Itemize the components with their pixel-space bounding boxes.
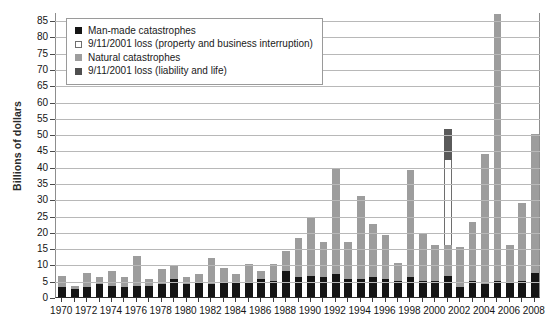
bar-1982 bbox=[208, 258, 216, 297]
segment-man-made bbox=[456, 287, 464, 297]
gridline bbox=[55, 184, 540, 185]
x-axis-tick bbox=[148, 298, 149, 302]
y-axis-tick-label: 25 bbox=[22, 212, 48, 222]
catastrophe-losses-bar-chart: Billions of dollars 05101520253035404550… bbox=[0, 0, 559, 327]
gridline bbox=[55, 103, 540, 104]
man-made-swatch bbox=[75, 27, 82, 34]
x-axis-tick bbox=[235, 298, 236, 302]
legend-label-man-made: Man-made catastrophes bbox=[88, 26, 196, 36]
segment-natural bbox=[382, 235, 390, 279]
x-axis-tick bbox=[298, 298, 299, 302]
legend-label-loss-liability: 9/11/2001 loss (liability and life) bbox=[88, 66, 227, 76]
segment-man-made bbox=[71, 289, 79, 297]
y-axis-tick bbox=[50, 184, 55, 185]
x-axis-tick bbox=[484, 298, 485, 302]
segment-man-made bbox=[307, 276, 315, 297]
segment-man-made bbox=[431, 281, 439, 297]
bar-2001 bbox=[444, 129, 452, 297]
bar-1988 bbox=[282, 251, 290, 297]
segment-man-made bbox=[506, 282, 514, 297]
segment-man-made bbox=[407, 277, 415, 297]
segment-natural bbox=[506, 245, 514, 282]
gridline bbox=[55, 119, 540, 120]
y-axis-tick-label: 35 bbox=[22, 179, 48, 189]
x-axis-tick bbox=[74, 298, 75, 302]
bar-2006 bbox=[506, 245, 514, 297]
bar-1974 bbox=[108, 271, 116, 297]
segment-man-made bbox=[158, 284, 166, 297]
x-axis-tick bbox=[111, 298, 112, 302]
segment-loss-liability bbox=[444, 129, 452, 160]
segment-natural bbox=[208, 258, 216, 284]
bar-1973 bbox=[96, 277, 104, 297]
x-axis-tick bbox=[123, 298, 124, 302]
bar-1975 bbox=[121, 277, 129, 297]
gridline bbox=[55, 151, 540, 152]
natural-swatch bbox=[75, 54, 82, 61]
segment-man-made bbox=[58, 287, 66, 297]
bar-1995 bbox=[369, 224, 377, 297]
segment-man-made bbox=[108, 286, 116, 297]
segment-natural bbox=[295, 238, 303, 277]
x-axis-tick bbox=[198, 298, 199, 302]
y-axis-tick-label: 60 bbox=[22, 98, 48, 108]
x-axis-tick bbox=[161, 298, 162, 302]
x-axis-tick bbox=[61, 298, 62, 302]
x-axis-tick-label: 2008 bbox=[517, 305, 551, 316]
y-axis-tick-label: 30 bbox=[22, 195, 48, 205]
x-axis-tick bbox=[310, 298, 311, 302]
x-axis-tick bbox=[447, 298, 448, 302]
bar-1971 bbox=[71, 286, 79, 297]
bar-2004 bbox=[481, 154, 489, 297]
segment-natural bbox=[407, 170, 415, 277]
segment-man-made bbox=[121, 287, 129, 297]
y-axis-tick bbox=[50, 135, 55, 136]
y-axis-tick-label: 75 bbox=[22, 49, 48, 59]
bar-1978 bbox=[158, 269, 166, 297]
x-axis-tick bbox=[273, 298, 274, 302]
segment-man-made bbox=[531, 273, 539, 297]
y-axis-tick bbox=[50, 298, 55, 299]
x-axis-tick bbox=[223, 298, 224, 302]
segment-man-made bbox=[295, 277, 303, 297]
y-axis-tick-label: 55 bbox=[22, 114, 48, 124]
segment-natural bbox=[108, 271, 116, 286]
gridline bbox=[55, 217, 540, 218]
segment-natural bbox=[320, 242, 328, 278]
x-axis-tick bbox=[472, 298, 473, 302]
x-axis-tick bbox=[173, 298, 174, 302]
y-axis-tick-label: 10 bbox=[22, 260, 48, 270]
segment-man-made bbox=[494, 281, 502, 297]
bar-1976 bbox=[133, 256, 141, 297]
bar-1990 bbox=[307, 217, 315, 297]
x-axis-tick bbox=[434, 298, 435, 302]
segment-natural bbox=[531, 134, 539, 272]
x-axis-tick bbox=[335, 298, 336, 302]
bar-2000 bbox=[431, 245, 439, 297]
y-axis-tick bbox=[50, 21, 55, 22]
segment-natural bbox=[431, 245, 439, 281]
y-axis-tick bbox=[50, 217, 55, 218]
x-axis-tick bbox=[347, 298, 348, 302]
y-axis-tick bbox=[50, 54, 55, 55]
segment-man-made bbox=[133, 286, 141, 297]
segment-natural bbox=[357, 196, 365, 279]
x-axis-tick bbox=[99, 298, 100, 302]
segment-man-made bbox=[282, 271, 290, 297]
y-axis-tick-label: 15 bbox=[22, 244, 48, 254]
segment-man-made bbox=[195, 282, 203, 297]
x-axis-tick bbox=[385, 298, 386, 302]
x-axis-tick bbox=[260, 298, 261, 302]
y-axis-tick-label: 40 bbox=[22, 163, 48, 173]
bar-1981 bbox=[195, 274, 203, 297]
bar-1970 bbox=[58, 276, 66, 297]
x-axis-tick bbox=[459, 298, 460, 302]
x-axis-tick bbox=[322, 298, 323, 302]
x-axis-tick bbox=[397, 298, 398, 302]
y-axis-tick-label: 80 bbox=[22, 32, 48, 42]
segment-man-made bbox=[320, 277, 328, 297]
segment-man-made bbox=[83, 287, 91, 297]
segment-man-made bbox=[481, 284, 489, 297]
x-axis-tick bbox=[210, 298, 211, 302]
gridline bbox=[55, 249, 540, 250]
